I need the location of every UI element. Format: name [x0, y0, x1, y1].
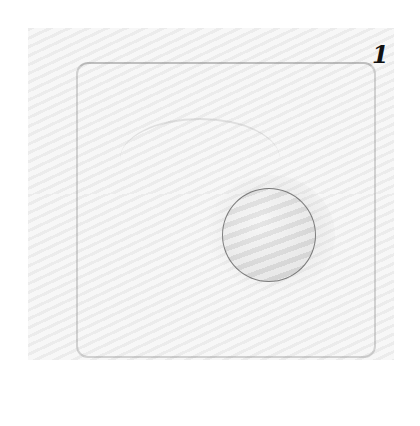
shaded-circle — [222, 188, 316, 282]
figure-number-label: 1 — [372, 40, 389, 69]
